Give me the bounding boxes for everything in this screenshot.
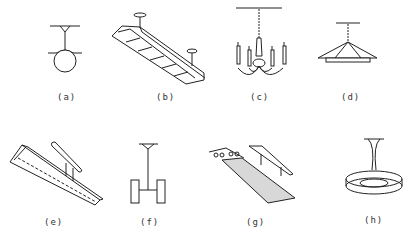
caption-b: (b) <box>156 92 175 102</box>
fixture-b-icon <box>112 13 205 84</box>
fixture-g-icon <box>209 146 295 203</box>
caption-e: (e) <box>44 217 63 227</box>
caption-g: (g) <box>246 217 265 227</box>
fixture-d-icon <box>318 23 377 62</box>
fixture-a-icon <box>48 26 82 72</box>
fixture-c-icon <box>236 8 286 75</box>
diagram-canvas <box>0 0 410 233</box>
caption-a: (a) <box>57 92 76 102</box>
caption-f: (f) <box>140 217 159 227</box>
caption-c: (c) <box>250 92 269 102</box>
caption-h: (h) <box>364 215 383 225</box>
fixture-f-icon <box>131 144 165 203</box>
caption-d: (d) <box>341 92 360 102</box>
fixture-e-icon <box>10 142 103 205</box>
fixture-h-icon <box>346 139 402 194</box>
